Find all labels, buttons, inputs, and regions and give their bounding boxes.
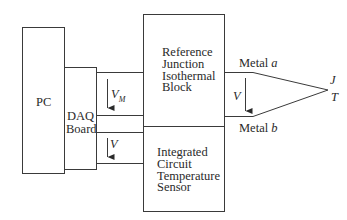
vm-subscript: M — [119, 95, 126, 104]
daq-label-line2: Board — [66, 123, 97, 136]
v-sensor-label: V — [110, 138, 118, 151]
reference-block-label: Reference Junction Isothermal Block — [162, 47, 215, 94]
metal-a-var: a — [271, 56, 277, 70]
vm-symbol: V — [111, 87, 119, 101]
metal-b-label: Metal b — [239, 122, 278, 135]
pc-label: PC — [36, 96, 51, 109]
metal-b-var: b — [271, 121, 277, 135]
wire-metal-a — [224, 73, 328, 91]
v-thermo-label: V — [233, 90, 241, 103]
metal-a-label: Metal a — [239, 57, 278, 70]
diagram-canvas: PC DAQ Board VM V Reference Junction Iso… — [0, 0, 347, 220]
sensor-label: Integrated Circuit Temperature Sensor — [157, 147, 220, 194]
junction-j-label: J — [330, 74, 336, 87]
metal-b-prefix: Metal — [239, 121, 271, 135]
vm-label: VM — [111, 88, 125, 106]
junction-t-label: T — [331, 91, 338, 104]
daq-label-line1: DAQ — [67, 110, 94, 123]
metal-a-prefix: Metal — [239, 56, 271, 70]
